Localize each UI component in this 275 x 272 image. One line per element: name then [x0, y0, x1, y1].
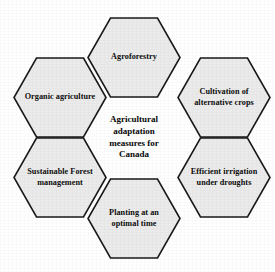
hex-label-efficient-irrigation: Efficient irrigation under droughts	[177, 167, 271, 188]
center-line-3: measures for	[91, 138, 177, 150]
center-line-4: Canada	[91, 149, 177, 161]
hex-label-sustainable-forest-mgmt: Sustainable Forest management	[13, 167, 107, 188]
hex-node-efficient-irrigation[interactable]: Efficient irrigation under droughts	[177, 137, 271, 218]
diagram-center-label: Agricultural adaptation measures for Can…	[87, 114, 181, 160]
center-line-1: Agricultural	[91, 114, 177, 126]
hex-label-organic-agriculture: Organic agriculture	[13, 92, 107, 102]
hex-label-planting-optimal-time: Planting at an optimal time	[87, 208, 181, 229]
hex-label-cultivation-alt-crops: Cultivation of alternative crops	[177, 87, 271, 108]
hex-node-cultivation-alt-crops[interactable]: Cultivation of alternative crops	[177, 57, 271, 138]
hexagon-diagram: Agroforestry Cultivation of alternative …	[0, 0, 275, 272]
hex-label-agroforestry: Agroforestry	[87, 52, 181, 62]
diagram-center-node: Agricultural adaptation measures for Can…	[87, 97, 181, 178]
center-line-2: adaptation	[91, 126, 177, 138]
